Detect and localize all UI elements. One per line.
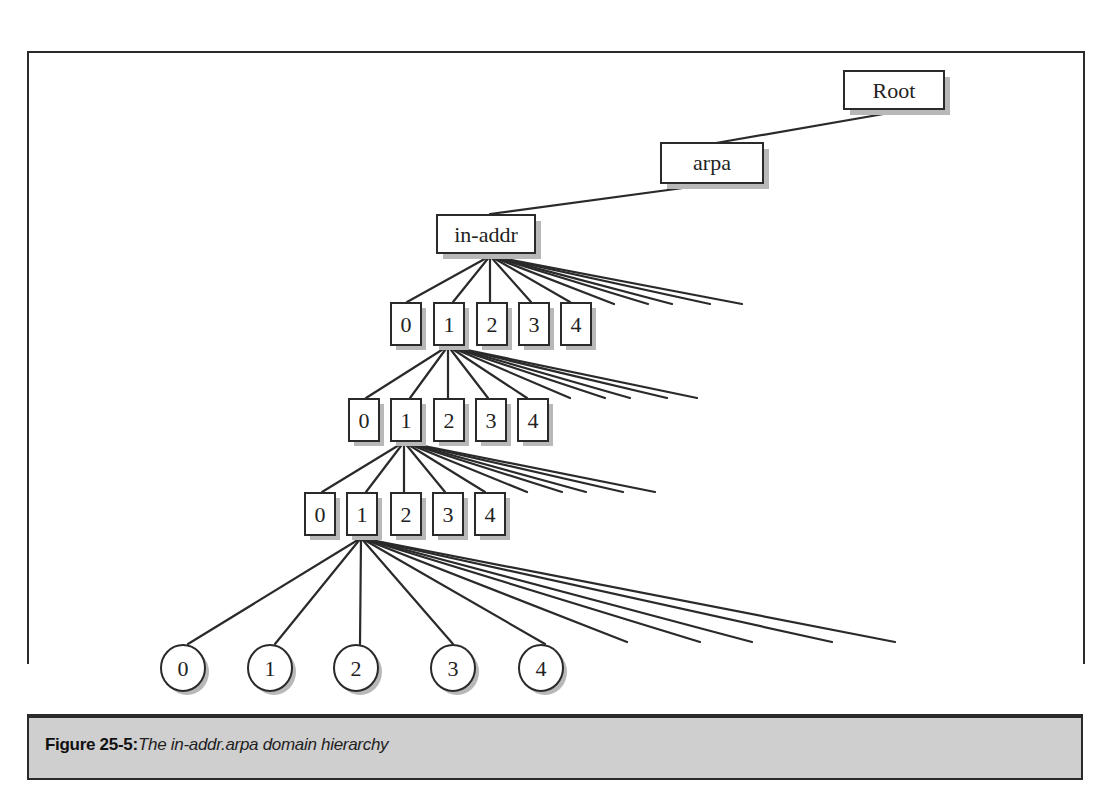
node-l2-1: 1 <box>391 399 426 446</box>
node-arpa-label: arpa <box>693 150 731 175</box>
node-l2-1-label: 1 <box>401 408 412 433</box>
node-l2-4-label: 4 <box>528 408 539 433</box>
node-l2-3-label: 3 <box>486 408 497 433</box>
node-l3-4: 4 <box>475 493 510 540</box>
node-in-addr: in-addr <box>437 215 541 259</box>
node-l3-0-label: 0 <box>315 502 326 527</box>
leaf-2-label: 2 <box>351 656 362 681</box>
node-l1-4-label: 4 <box>571 312 582 337</box>
node-l3-3: 3 <box>433 493 468 540</box>
node-l2-2: 2 <box>434 399 469 446</box>
node-l1-3-label: 3 <box>529 312 540 337</box>
node-l2-0-label: 0 <box>359 408 370 433</box>
leaf-4-label: 4 <box>536 656 547 681</box>
node-in-addr-label: in-addr <box>454 222 518 247</box>
node-l1-1-label: 1 <box>444 312 455 337</box>
node-l2-2-label: 2 <box>444 408 455 433</box>
node-l1-2: 2 <box>477 303 512 350</box>
node-l3-1-label: 1 <box>357 502 368 527</box>
node-l3-3-label: 3 <box>443 502 454 527</box>
leaf-1-label: 1 <box>265 656 276 681</box>
node-root: Root <box>844 71 950 115</box>
node-l1-1: 1 <box>434 303 469 350</box>
node-l3-1: 1 <box>347 493 382 540</box>
node-l1-2-label: 2 <box>487 312 498 337</box>
level3-nodes: 0 1 2 3 4 <box>305 493 510 540</box>
node-l3-2-label: 2 <box>401 502 412 527</box>
node-l2-4: 4 <box>518 399 553 446</box>
node-arpa: arpa <box>661 143 769 189</box>
figure-caption: The in-addr.arpa domain hierarchy <box>138 735 388 755</box>
leaf-0-label: 0 <box>178 656 189 681</box>
leaf-nodes: 0 1 2 3 4 <box>161 645 567 695</box>
leaf-4: 4 <box>519 645 567 695</box>
leaf-3-label: 3 <box>448 656 459 681</box>
leaf-0: 0 <box>161 645 209 695</box>
node-l3-0: 0 <box>305 493 340 540</box>
node-l1-0-label: 0 <box>401 312 412 337</box>
node-l3-2: 2 <box>391 493 426 540</box>
connector-lines <box>188 112 895 644</box>
level2-nodes: 0 1 2 3 4 <box>349 399 553 446</box>
node-l1-3: 3 <box>519 303 554 350</box>
node-l1-4: 4 <box>561 303 596 350</box>
node-l2-0: 0 <box>349 399 384 446</box>
figure-caption-bar: Figure 25-5: The in-addr.arpa domain hie… <box>27 714 1083 780</box>
figure-label: Figure 25-5: <box>45 735 138 755</box>
node-l1-0: 0 <box>391 303 426 350</box>
node-l2-3: 3 <box>476 399 511 446</box>
leaf-3: 3 <box>431 645 479 695</box>
node-l3-4-label: 4 <box>485 502 496 527</box>
level1-nodes: 0 1 2 3 4 <box>391 303 596 350</box>
node-root-label: Root <box>873 78 916 103</box>
leaf-1: 1 <box>248 645 296 695</box>
domain-hierarchy-diagram: Root arpa in-addr 0 1 2 3 4 0 1 2 3 4 0 … <box>0 0 1109 810</box>
leaf-2: 2 <box>334 645 382 695</box>
